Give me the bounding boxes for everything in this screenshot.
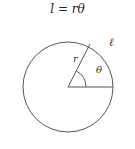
angle-arc [76, 71, 86, 87]
circle-diagram: r θ ℓ [0, 0, 135, 149]
arc-length-label: ℓ [109, 36, 114, 49]
angle-label: θ [96, 64, 102, 75]
radius-label: r [73, 53, 79, 64]
radius-line [68, 44, 90, 87]
